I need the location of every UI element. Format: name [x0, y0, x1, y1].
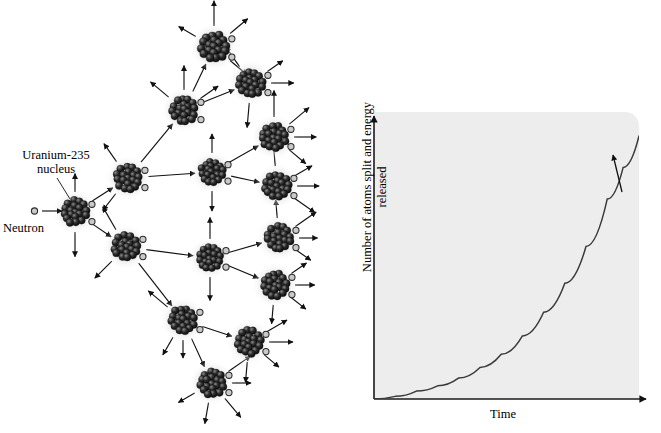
uranium-nucleus — [252, 262, 299, 309]
neutron-icon — [31, 208, 37, 214]
emission-arrow — [139, 263, 172, 306]
emission-arrow — [293, 197, 314, 212]
emission-arrow — [289, 108, 309, 125]
emission-arrow — [104, 144, 117, 162]
neutron-icon — [288, 143, 294, 149]
emission-arrow — [103, 207, 116, 230]
neutron-icon — [89, 218, 95, 224]
chart-svg — [345, 0, 661, 433]
nuclear-fission-chain-reaction-diagram: Uranium-235nucleus Neutron — [0, 0, 345, 433]
neutron-icon — [198, 99, 204, 105]
neutron-label: Neutron — [3, 221, 44, 235]
neutron-icon — [89, 201, 95, 207]
neutron-icon — [197, 309, 203, 315]
emission-arrow — [150, 82, 168, 97]
uranium-nucleus — [226, 319, 273, 366]
emission-arrow — [266, 320, 287, 332]
uranium-nucleus — [228, 60, 275, 107]
exponential-growth-chart: Number of atoms split and energy release… — [345, 0, 661, 433]
neutron-icon — [198, 116, 204, 122]
emission-arrow — [148, 291, 167, 307]
neutron-icon — [197, 326, 203, 332]
uranium-nucleus — [256, 215, 303, 262]
uranium-nucleus — [161, 87, 208, 134]
uranium-235-label: Uranium-235nucleus — [13, 148, 99, 176]
plot-background — [374, 112, 639, 399]
emission-arrow — [200, 86, 218, 98]
neutron-icon — [265, 89, 271, 95]
uranium-label-line1: Uranium-235 — [22, 148, 89, 162]
neutron-icon — [288, 126, 294, 132]
neutron-icon — [142, 167, 148, 173]
uranium-nucleus — [105, 155, 152, 202]
fission-svg — [0, 0, 345, 433]
emission-arrow — [146, 250, 193, 256]
neutron-icon — [226, 372, 232, 378]
emission-arrow — [141, 124, 173, 162]
neutron-icon — [226, 389, 232, 395]
neutron-icon — [140, 236, 146, 242]
neutron-icon — [293, 244, 299, 250]
uranium-nucleus — [254, 163, 301, 210]
neutron-icon — [289, 291, 295, 297]
neutron-icon — [223, 248, 229, 254]
neutron-icon — [265, 72, 271, 78]
neutron-icon — [229, 54, 235, 60]
uranium-nucleus — [251, 114, 298, 161]
figure-root: Uranium-235nucleus Neutron — [0, 0, 661, 433]
neutron-icon — [225, 178, 231, 184]
emission-arrow — [148, 173, 195, 176]
uranium-nucleus — [52, 189, 99, 236]
neutron-icon — [291, 192, 297, 198]
neutron-icon — [293, 227, 299, 233]
uranium-nucleus — [190, 150, 233, 193]
uranium-label-line2: nucleus — [37, 162, 75, 176]
neutron-icon — [263, 348, 269, 354]
emission-arrow — [247, 103, 249, 128]
y-axis-label: Number of atoms split and energy release… — [360, 97, 390, 277]
x-axis-label: Time — [345, 407, 661, 422]
emission-arrow — [225, 398, 241, 417]
emission-arrow — [95, 261, 112, 278]
emission-arrow — [295, 212, 316, 227]
neutron-icon — [140, 253, 146, 259]
neutron-icon — [142, 184, 148, 190]
uranium-nuclei-layer — [52, 22, 303, 406]
neutron-icon — [223, 264, 229, 270]
neutron-icon — [225, 162, 231, 168]
neutron-icon — [289, 274, 295, 280]
uranium-nucleus — [188, 236, 231, 279]
neutron-icon — [263, 331, 269, 337]
neutron-icon — [229, 36, 235, 42]
uranium-nucleus — [189, 22, 239, 72]
uranium-nucleus — [103, 224, 150, 271]
uranium-nucleus — [189, 360, 236, 407]
neutron-icon — [291, 175, 297, 181]
uranium-nucleus — [160, 297, 207, 344]
